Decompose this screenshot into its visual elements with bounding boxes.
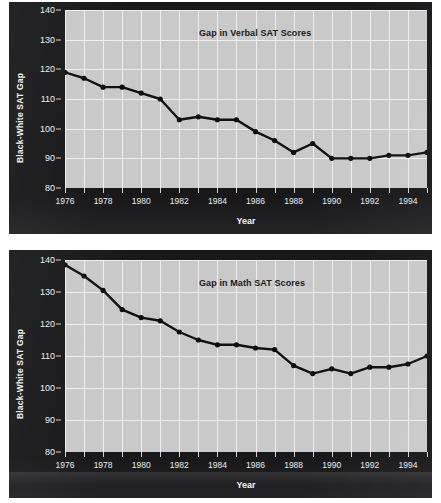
y-tick-mark (56, 188, 61, 189)
x-tick-label: 1978 (94, 196, 113, 206)
chart-panel-math: Black-White SAT Gap 1401301201101009080 … (9, 250, 432, 498)
x-tick-label: 1990 (322, 196, 341, 206)
x-tick-mark (141, 452, 142, 457)
data-point (234, 342, 239, 347)
y-tick-label: 140 (40, 255, 55, 265)
x-tick-mark (256, 452, 257, 457)
x-tick-mark (160, 452, 161, 457)
data-point (139, 90, 144, 95)
x-tick-mark (160, 188, 161, 193)
data-point (81, 76, 86, 81)
x-tick-mark (427, 188, 428, 193)
data-point (101, 85, 106, 90)
line-chart-math (65, 260, 427, 452)
x-axis-title-math: Year (65, 480, 427, 490)
y-tick-label: 120 (40, 64, 55, 74)
data-point (405, 361, 410, 366)
x-tick-label: 1984 (208, 196, 227, 206)
x-axis-ticks-verbal (65, 188, 427, 193)
y-tick-mark (56, 420, 61, 421)
x-tick-mark (332, 452, 333, 457)
y-tick-mark (56, 128, 61, 129)
x-axis-labels-verbal: 1976197819801982198419861988199019921994 (65, 196, 427, 208)
y-tick-mark (56, 99, 61, 100)
x-tick-label: 1984 (208, 460, 227, 470)
x-tick-label: 1986 (246, 460, 265, 470)
data-point (386, 153, 391, 158)
data-point (329, 156, 334, 161)
x-tick-mark (122, 188, 123, 193)
data-point (158, 318, 163, 323)
data-point (215, 117, 220, 122)
y-tick-label: 130 (40, 287, 55, 297)
data-point (158, 96, 163, 101)
x-axis-labels-math: 1976197819801982198419861988199019921994 (65, 460, 427, 472)
data-point (386, 365, 391, 370)
chart-title-math: Gap in Math SAT Scores (199, 278, 305, 288)
x-tick-label: 1988 (284, 196, 303, 206)
y-axis-title-math: Black-White SAT Gap (9, 250, 31, 498)
y-tick-mark (56, 39, 61, 40)
data-point (272, 347, 277, 352)
y-tick-label: 110 (41, 351, 55, 361)
data-point (139, 315, 144, 320)
y-tick-label: 90 (45, 415, 55, 425)
y-tick-mark (56, 324, 61, 325)
data-point (120, 85, 125, 90)
data-point (253, 345, 258, 350)
data-point (424, 150, 427, 155)
data-point (310, 371, 315, 376)
y-tick-label: 80 (45, 447, 55, 457)
data-point (234, 117, 239, 122)
x-tick-label: 1994 (398, 196, 417, 206)
data-point (291, 150, 296, 155)
x-tick-mark (236, 188, 237, 193)
x-tick-mark (256, 188, 257, 193)
x-tick-label: 1994 (398, 460, 417, 470)
x-tick-label: 1978 (94, 460, 113, 470)
x-tick-mark (236, 452, 237, 457)
x-axis-title-verbal: Year (65, 216, 427, 226)
x-tick-mark (103, 188, 104, 193)
y-tick-mark (56, 260, 61, 261)
y-tick-mark (56, 292, 61, 293)
y-tick-label: 140 (40, 5, 55, 15)
y-tick-mark (56, 356, 61, 357)
x-tick-label: 1976 (56, 460, 75, 470)
data-point (348, 371, 353, 376)
data-point (196, 337, 201, 342)
x-tick-label: 1980 (132, 460, 151, 470)
y-tick-label: 120 (40, 319, 55, 329)
x-tick-mark (179, 188, 180, 193)
y-tick-mark (56, 388, 61, 389)
x-tick-mark (141, 188, 142, 193)
chart-title-verbal: Gap in Verbal SAT Scores (199, 28, 311, 38)
x-tick-mark (217, 452, 218, 457)
data-point (101, 288, 106, 293)
x-tick-mark (65, 452, 66, 457)
x-tick-mark (84, 452, 85, 457)
data-point (272, 138, 277, 143)
x-tick-mark (294, 188, 295, 193)
data-point (367, 365, 372, 370)
x-tick-mark (370, 452, 371, 457)
x-tick-mark (332, 188, 333, 193)
x-tick-label: 1980 (132, 196, 151, 206)
plot-area-math (65, 260, 427, 452)
x-axis-ticks-math (65, 452, 427, 457)
x-tick-mark (198, 188, 199, 193)
data-point (329, 366, 334, 371)
x-tick-label: 1990 (322, 460, 341, 470)
x-tick-mark (275, 188, 276, 193)
data-point (367, 156, 372, 161)
x-tick-mark (370, 188, 371, 193)
x-tick-label: 1988 (284, 460, 303, 470)
x-tick-mark (313, 452, 314, 457)
x-tick-mark (179, 452, 180, 457)
y-tick-label: 90 (45, 153, 55, 163)
x-tick-mark (84, 188, 85, 193)
y-tick-label: 100 (40, 383, 55, 393)
x-tick-mark (351, 452, 352, 457)
x-tick-label: 1982 (170, 196, 189, 206)
data-point (291, 363, 296, 368)
